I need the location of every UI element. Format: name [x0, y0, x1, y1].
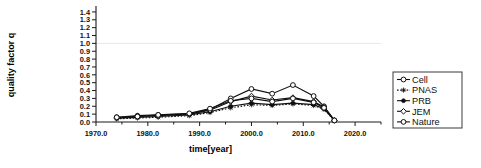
legend-label-prb: PRB: [412, 96, 431, 106]
series-marker-cell: [270, 91, 275, 96]
x-tick-label: 2010.0: [292, 129, 315, 138]
series-marker-cell: [291, 83, 296, 88]
series-marker-nature: [332, 118, 337, 123]
series-marker-nature: [322, 105, 327, 110]
legend-label-pnas: PNAS: [412, 85, 437, 95]
legend-label-nature: Nature: [412, 117, 440, 127]
y-tick-label: 0.3: [80, 94, 90, 103]
y-tick-label: 0.4: [80, 86, 91, 95]
y-tick-label: 1.1: [80, 31, 90, 40]
series-marker-cell: [249, 87, 254, 92]
series-marker-nature: [135, 114, 140, 119]
y-tick-label: 1.3: [80, 15, 90, 24]
y-axis-title: quality factor q: [6, 33, 16, 98]
y-tick-label: 0.8: [80, 55, 90, 64]
series-marker-nature: [208, 106, 213, 111]
series-marker-nature: [291, 96, 296, 101]
series-line-pnas: [117, 104, 335, 121]
chart-figure: 0.00.10.20.30.40.50.60.70.80.91.01.11.21…: [0, 0, 481, 168]
line-chart: 0.00.10.20.30.40.50.60.70.80.91.01.11.21…: [0, 0, 481, 168]
y-tick-label: 0.5: [80, 78, 90, 87]
y-tick-label: 1.4: [80, 8, 91, 17]
legend-label-cell: Cell: [412, 75, 428, 85]
series-marker-nature: [114, 115, 119, 120]
x-tick-label: 1990.0: [188, 129, 211, 138]
series-marker-nature: [228, 98, 233, 103]
series-marker-nature: [187, 111, 192, 116]
series-marker-nature: [311, 100, 316, 105]
legend-marker-cell: [401, 77, 406, 82]
legend-marker-nature: [401, 120, 406, 125]
y-tick-label: 0.9: [80, 47, 90, 56]
y-tick-label: 0.7: [80, 63, 90, 72]
x-axis-title: time[year]: [189, 144, 232, 154]
y-tick-label: 0.0: [80, 118, 90, 127]
series-marker-cell: [311, 94, 316, 99]
x-tick-label: 1980.0: [137, 129, 160, 138]
series-marker-nature: [249, 96, 254, 101]
x-tick-label: 2020.0: [344, 129, 367, 138]
y-tick-label: 1.2: [80, 23, 90, 32]
legend-label-jem: JEM: [412, 107, 430, 117]
y-tick-label: 0.1: [80, 110, 90, 119]
series-marker-nature: [156, 113, 161, 118]
y-tick-label: 1.0: [80, 39, 90, 48]
x-tick-label: 1970.0: [85, 129, 108, 138]
x-tick-label: 2000.0: [240, 129, 263, 138]
series-marker-nature: [270, 99, 275, 104]
y-tick-label: 0.6: [80, 71, 90, 80]
y-tick-label: 0.2: [80, 102, 90, 111]
